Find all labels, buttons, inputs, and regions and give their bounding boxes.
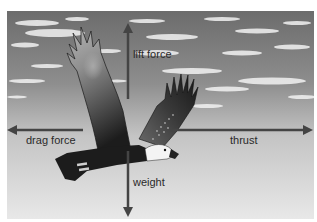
weight-label: weight bbox=[133, 177, 165, 188]
force-diagram: lift force drag force thrust weight bbox=[7, 11, 314, 219]
lift-force-label: lift force bbox=[133, 49, 172, 60]
thrust-label: thrust bbox=[230, 135, 258, 146]
drag-force-label: drag force bbox=[26, 135, 76, 146]
